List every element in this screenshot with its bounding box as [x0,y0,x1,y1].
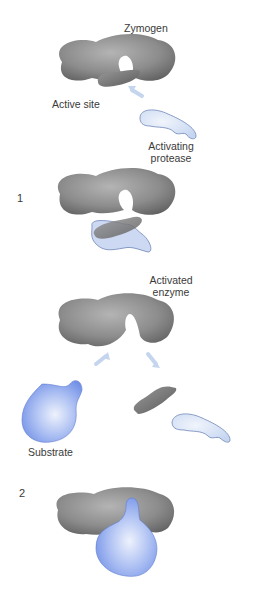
enzyme-substrate-complex [57,487,175,576]
cleaved-fragment-shape [134,386,177,414]
arrow-icon [132,90,142,96]
label-line: Activating [140,140,202,152]
activated-enzyme-shape [59,293,174,346]
label-line: enzyme [140,286,202,298]
released-protease-shape [172,414,230,442]
zymogen-label: Zymogen [124,22,168,34]
active-site-label: Active site [52,98,100,110]
arrow-icon [148,354,156,364]
step-2-label: 2 [19,487,25,499]
label-line: Activated [140,274,202,286]
activating-protease-label: Activating protease [140,140,202,164]
activating-protease-shape [140,110,196,139]
diagram-canvas [0,0,268,592]
step-1-label: 1 [17,192,23,204]
activated-enzyme-label: Activated enzyme [140,274,202,298]
substrate-label: Substrate [28,446,73,458]
substrate-shape [22,381,82,443]
zymogen-with-protease [58,168,175,252]
zymogen-shape [59,34,175,87]
label-line: protease [140,152,202,164]
